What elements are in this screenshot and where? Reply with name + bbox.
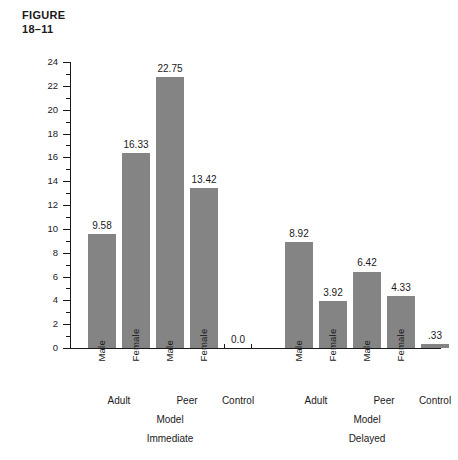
bar [122,153,150,348]
y-axis-tick-label: 12 [32,200,58,210]
y-axis-major-tick [63,348,70,349]
y-axis-line [70,62,71,349]
x-axis-model-label: Control [198,396,278,406]
figure-label-line-1: FIGURE [22,8,65,22]
figure-container: FIGURE 18–11 Average imitative aggressio… [0,0,458,460]
bar [156,77,184,348]
x-axis-sex-label: Female [199,329,209,362]
bar-value-label: 0.0 [218,335,258,345]
bar-value-label: 4.33 [381,283,421,293]
y-axis-tick-label: 14 [32,176,58,186]
bar [285,242,313,348]
figure-number-heading: FIGURE 18–11 [22,8,65,36]
figure-label-line-2: 18–11 [22,22,65,36]
y-axis-tick-label: 22 [32,81,58,91]
y-axis-tick-label: 18 [32,129,58,139]
bar-value-label: 9.58 [82,221,122,231]
bar-value-label: 6.42 [347,258,387,268]
y-axis-tick-label: 10 [32,224,58,234]
y-axis-tick-label: 2 [32,319,58,329]
bar [353,272,381,349]
x-axis-group-label: Model [317,415,417,425]
x-axis-sex-label: Male [165,340,175,361]
y-axis-tick-label: 16 [32,152,58,162]
bar [421,344,449,348]
x-axis-sex-label: Female [131,329,141,362]
x-axis-sex-label: Male [294,340,304,361]
bar-value-label: 22.75 [150,64,190,74]
bar [88,234,116,348]
x-axis-sex-label: Female [396,329,406,362]
y-axis-tick-label: 24 [32,57,58,67]
x-axis-line [70,348,441,349]
x-axis-sex-label: Female [328,329,338,362]
bar-value-label: 16.33 [116,140,156,150]
x-axis-sex-label: Male [97,340,107,361]
bar-value-label: 3.92 [313,288,353,298]
y-axis-tick-label: 8 [32,248,58,258]
y-axis-tick-label: 6 [32,272,58,282]
x-axis-condition-label: Delayed [317,434,417,444]
x-axis-model-label: Control [395,396,458,406]
y-axis-tick-labels: 024681012141618202224 [30,62,70,348]
bar [190,188,218,348]
x-axis-group-label: Model [120,415,220,425]
bar-value-label: 8.92 [279,229,319,239]
y-axis-tick-label: 20 [32,105,58,115]
bar-value-label: 13.42 [184,175,224,185]
plot-area: 024681012141618202224 9.5816.3322.7513.4… [70,62,441,348]
y-axis-tick-label: 4 [32,295,58,305]
x-axis-sex-label: Male [362,340,372,361]
x-axis-condition-label: Immediate [120,434,220,444]
y-axis-tick-label: 0 [32,343,58,353]
bar-value-label: .33 [415,331,455,341]
